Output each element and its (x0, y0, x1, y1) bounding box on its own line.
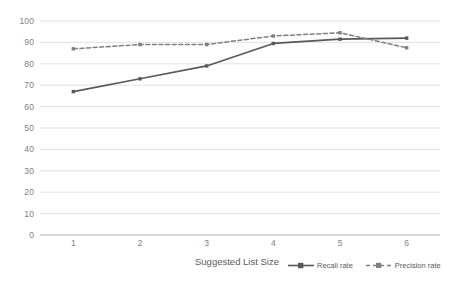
data-point-marker (272, 34, 275, 37)
data-point-marker (72, 47, 75, 50)
x-tick-label: 6 (392, 238, 422, 248)
legend-item-recall-rate[interactable]: Recall rate (288, 261, 353, 270)
gridlines (40, 21, 440, 235)
x-tick-label: 4 (258, 238, 288, 248)
y-tick-label: 70 (0, 80, 34, 90)
y-tick-label: 10 (0, 209, 34, 219)
x-tick-label: 1 (58, 238, 88, 248)
legend-swatch-solid-icon (288, 261, 314, 270)
data-point-marker (138, 77, 141, 80)
legend-label-recall-rate: Recall rate (317, 261, 353, 270)
series-layer (72, 31, 409, 93)
y-tick-label: 100 (0, 16, 34, 26)
data-point-marker (205, 43, 208, 46)
y-tick-label: 40 (0, 144, 34, 154)
x-tick-label: 3 (192, 238, 222, 248)
data-point-marker (72, 90, 75, 93)
y-tick-label: 30 (0, 166, 34, 176)
data-point-marker (272, 42, 275, 45)
data-point-marker (338, 31, 341, 34)
data-point-marker (405, 36, 408, 39)
y-tick-label: 80 (0, 59, 34, 69)
chart-legend: Recall rate Precision rate (288, 259, 441, 271)
x-tick-label: 2 (125, 238, 155, 248)
data-point-marker (338, 37, 341, 40)
y-tick-label: 50 (0, 123, 34, 133)
legend-label-precision-rate: Precision rate (395, 261, 441, 270)
y-tick-label: 90 (0, 37, 34, 47)
data-point-marker (405, 46, 408, 49)
legend-item-precision-rate[interactable]: Precision rate (366, 261, 441, 270)
legend-swatch-dashed-icon (366, 261, 392, 270)
y-tick-label: 0 (0, 230, 34, 240)
series-line-precision-rate (73, 33, 406, 49)
x-tick-label: 5 (325, 238, 355, 248)
y-tick-label: 20 (0, 187, 34, 197)
line-chart: 0102030405060708090100 123456 Suggested … (0, 0, 450, 284)
y-tick-label: 60 (0, 102, 34, 112)
data-point-marker (138, 43, 141, 46)
data-point-marker (205, 64, 208, 67)
